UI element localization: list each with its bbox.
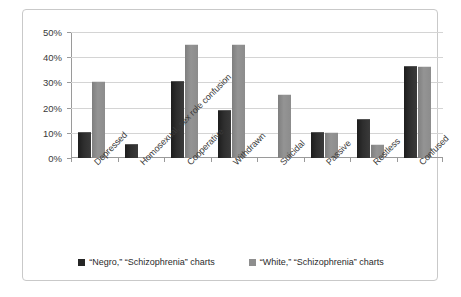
- bar-negro: [311, 132, 324, 158]
- y-axis-tick-label: 40%: [43, 52, 62, 63]
- y-axis-tick-label: 50%: [43, 27, 62, 38]
- bar-negro: [78, 132, 91, 158]
- chart-frame: 0%10%20%30%40%50% DepressedHomosexual, s…: [22, 9, 438, 281]
- chart-legend: “Negro,” “Schizophrenia” charts“White,” …: [23, 257, 439, 267]
- bar-negro: [404, 66, 417, 158]
- legend-item: “Negro,” “Schizophrenia” charts: [78, 257, 215, 267]
- y-axis-tick-label: 20%: [43, 102, 62, 113]
- bar-group: [350, 32, 397, 158]
- bar-negro: [357, 119, 370, 158]
- legend-label: “Negro,” “Schizophrenia” charts: [89, 257, 215, 267]
- legend-label: “White,” “Schizophrenia” charts: [260, 257, 384, 267]
- legend-item: “White,” “Schizophrenia” charts: [249, 257, 384, 267]
- bar-white: [418, 66, 431, 158]
- bar-white: [232, 44, 245, 158]
- x-axis-tick-labels: DepressedHomosexual, sex role confusionC…: [71, 160, 443, 240]
- y-axis-tick-label: 30%: [43, 77, 62, 88]
- y-axis-tick-label: 10%: [43, 127, 62, 138]
- y-axis-tick-label: 0%: [48, 153, 62, 164]
- bar-group: [71, 32, 118, 158]
- bar-white: [92, 81, 105, 158]
- bar-negro: [125, 144, 138, 158]
- legend-swatch-light: [249, 259, 256, 266]
- legend-swatch-dark: [78, 259, 85, 266]
- y-axis-tick-labels: 0%10%20%30%40%50%: [23, 32, 67, 158]
